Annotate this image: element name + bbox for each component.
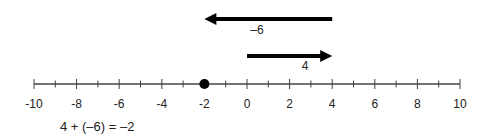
number-line-diagram: -10-8-6-4-20246810 –64 4 + (–6) = –2: [0, 0, 488, 140]
arrow-add-neg6: –6: [204, 13, 332, 37]
tick-label: 8: [414, 97, 421, 111]
tick-label: 0: [244, 97, 251, 111]
tick-label: -6: [114, 97, 125, 111]
arrow-add-4: 4: [247, 50, 332, 73]
addition-arrows: –64: [204, 13, 332, 73]
tick-marks: [34, 79, 460, 89]
arrow-label: –6: [250, 23, 264, 37]
tick-label: -10: [25, 97, 43, 111]
tick-label: -2: [199, 97, 210, 111]
tick-label: 4: [329, 97, 336, 111]
equation-label: 4 + (–6) = –2: [60, 119, 134, 134]
arrow-label: 4: [302, 59, 309, 73]
tick-label: 2: [286, 97, 293, 111]
tick-label: 10: [453, 97, 467, 111]
result-point: [199, 79, 209, 89]
tick-label: 6: [371, 97, 378, 111]
tick-label: -8: [71, 97, 82, 111]
tick-label: -4: [156, 97, 167, 111]
tick-labels: -10-8-6-4-20246810: [25, 97, 467, 111]
